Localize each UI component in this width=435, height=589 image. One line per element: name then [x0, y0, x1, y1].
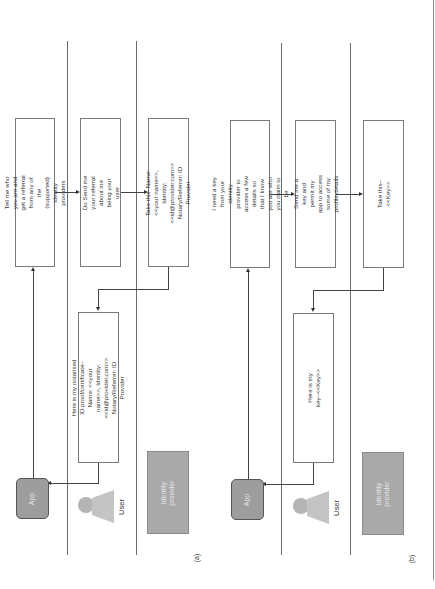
lane-divider-user-idp	[136, 41, 137, 555]
arrow-head-up-icon	[246, 268, 250, 272]
connector-4-app-a	[313, 463, 314, 484]
panel-caption-a: (a)	[193, 554, 201, 563]
app-actor-label: App	[29, 492, 37, 504]
app-actor: App	[16, 478, 49, 519]
connector-4-app-a	[98, 463, 99, 483]
identity-provider-actor: Identity provider	[362, 452, 404, 535]
identity-provider-label: Identity provider	[160, 473, 176, 513]
identity-provider-label: Identity provider	[375, 474, 391, 514]
user-actor-label: User	[333, 500, 341, 516]
app-actor-label: App	[244, 493, 252, 505]
connector-3-4-c	[98, 289, 99, 308]
message-text-4: Here is my notarised ID proof/certificat…	[71, 357, 127, 418]
arrow-head-down-icon	[96, 307, 100, 311]
message-text-4: Here is my key–<<Key>>	[306, 369, 322, 408]
user-actor-label: User	[118, 499, 126, 515]
lane-divider-app-user	[281, 43, 282, 555]
connector-3-4-b	[313, 290, 384, 291]
message-text-3: Take this–<<Key>>	[376, 175, 392, 214]
arrow-head-down-icon	[311, 308, 315, 312]
connector-4-app-b	[265, 484, 314, 485]
arrow-head-up-icon	[31, 267, 35, 271]
arrow-line-2-3	[336, 194, 360, 195]
message-box-4: Here is my key–<<Key>>	[293, 313, 334, 463]
message-box-2: Send me a key and permit my app to acces…	[295, 120, 336, 268]
arrow-line-1-2	[270, 194, 292, 195]
message-box-3: Take this–<<Key>>	[363, 120, 404, 268]
user-body-icon	[307, 491, 329, 524]
message-box-3: Take this–Name: <<your name>>, Identity:…	[148, 118, 189, 267]
message-box-1: Tell me who you are and get a referral f…	[15, 118, 55, 267]
message-box-2: Do Send me your referral about me being …	[80, 118, 121, 267]
message-text-2: Send me a key and permit my app to acces…	[292, 175, 340, 214]
user-body-icon	[92, 490, 114, 523]
lane-divider-app-user	[67, 41, 68, 555]
connector-3-4-a	[168, 267, 169, 289]
message-box-4: Here is my notarised ID proof/certificat…	[78, 312, 119, 463]
lane-divider-user-idp	[350, 43, 351, 555]
app-actor: App	[231, 479, 264, 520]
message-text-3: Take this–Name: <<your name>>, Identity:…	[145, 162, 193, 223]
connector-4-app-b	[50, 483, 99, 484]
identity-provider-actor: Identity provider	[147, 451, 189, 534]
arrow-line-2-3	[121, 192, 145, 193]
message-text-2: Do Send me your referral about me being …	[81, 173, 121, 212]
message-box-1: I need a key from your identity provider…	[230, 120, 270, 268]
arrow-line-1-2	[55, 192, 77, 193]
page-edge-line	[433, 0, 434, 580]
connector-app-1	[33, 271, 34, 478]
connector-app-1	[248, 272, 249, 479]
panel-caption-b: (b)	[408, 555, 416, 564]
connector-3-4-b	[98, 289, 169, 290]
connector-3-4-c	[313, 290, 314, 309]
connector-3-4-a	[383, 268, 384, 290]
